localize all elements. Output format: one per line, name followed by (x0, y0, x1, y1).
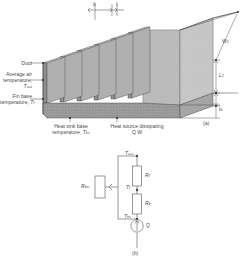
dimension-gap-b: b (93, 1, 96, 7)
hs-base-subscript: hs (86, 132, 90, 136)
label-fin-base-temperature: Fin base temperature, Tf (0, 93, 32, 107)
network-node-Tavg: Ta-a (125, 150, 133, 156)
label-duct: Duct (0, 60, 32, 66)
panel-b-label: (b) (132, 250, 138, 256)
label-heat-source: Heat source dissipating Q W (104, 123, 170, 135)
network-node-Tf: Tf (126, 184, 130, 190)
thermal-network (95, 155, 143, 248)
network-node-Ths: Ths (124, 213, 131, 219)
heatsink-isometric (30, 4, 239, 122)
panel-a-label: (a) (203, 120, 209, 126)
heatsink-body (143, 18, 213, 105)
label-average-air-temperature: Average air temperature, Ta-a (0, 71, 32, 91)
dimension-width-W1: W1 (222, 38, 229, 44)
callout-leaders (30, 62, 44, 100)
dimension-base-thickness-tb: tb (219, 106, 222, 112)
fin-base-subscript: f (33, 102, 34, 106)
dimension-length-L1: L1 (219, 72, 224, 78)
network-resistor-Rf: Rf (145, 172, 150, 178)
dimension-thickness-t: t (116, 1, 117, 7)
avg-air-subscript: a-a (27, 86, 32, 90)
network-source-Q: Q (146, 222, 150, 228)
network-resistor-Rb: Rb (145, 200, 151, 206)
label-heat-sink-base-temperature: Heat sink base temperature, Ths (40, 123, 102, 137)
network-resistor-Rha: Rha (81, 183, 89, 189)
